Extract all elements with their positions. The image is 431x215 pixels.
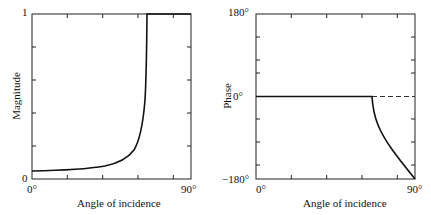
phase-y-axis-title: Phase [221, 71, 233, 121]
phase-x-axis-title: Angle of incidence [303, 197, 387, 209]
phase-x-max-label: 90° [407, 183, 422, 195]
magnitude-curve [32, 14, 191, 171]
magnitude-y-max-label: 1 [22, 6, 28, 18]
phase-y-max-label: 180° [228, 6, 249, 18]
phase-x-min-label: 0° [256, 183, 266, 195]
phase-y-min-label: −180° [222, 173, 249, 185]
magnitude-x-max-label: 90° [181, 183, 196, 195]
magnitude-plot [32, 14, 191, 179]
magnitude-x-min-label: 0° [27, 183, 37, 195]
magnitude-x-axis-title: Angle of incidence [77, 197, 161, 209]
phase-curve [256, 97, 415, 180]
chart-canvas [0, 0, 431, 215]
phase-y-mid-label: 0° [233, 90, 243, 102]
phase-plot [256, 14, 415, 179]
magnitude-y-axis-title: Magnitude [10, 66, 22, 126]
